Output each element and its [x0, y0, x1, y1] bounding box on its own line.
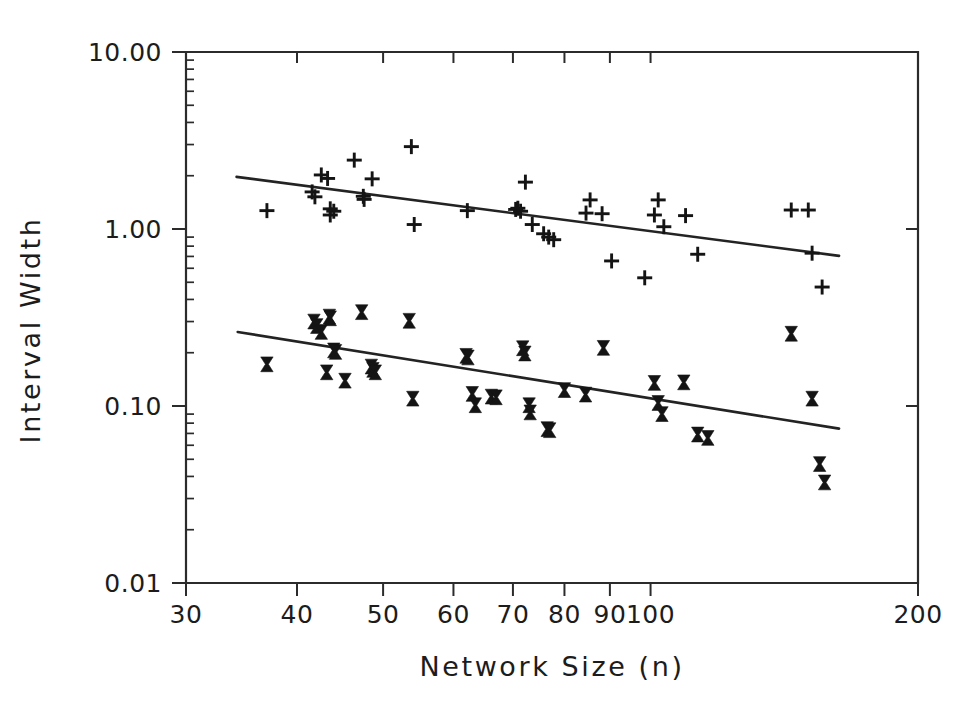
lower-series-points — [261, 305, 831, 490]
data-point-bowtie — [320, 365, 332, 380]
x-tick-label: 70 — [497, 600, 530, 629]
x-tick-label: 100 — [626, 600, 675, 629]
data-point-bowtie — [407, 391, 419, 406]
plot-frame — [186, 52, 918, 583]
data-point-bowtie — [656, 407, 668, 422]
data-point-bowtie — [692, 427, 704, 442]
data-point-bowtie — [579, 387, 591, 402]
data-point-bowtie — [558, 383, 570, 398]
lower-fit-line — [238, 332, 839, 429]
data-point-bowtie — [261, 357, 273, 372]
plot-border — [186, 52, 918, 583]
y-axis-ticks — [172, 52, 918, 583]
y-tick-label: 1.00 — [104, 215, 162, 244]
y-tick-label: 0.10 — [104, 392, 162, 421]
data-point-bowtie — [818, 475, 830, 490]
x-axis-title: Network Size (n) — [419, 651, 684, 682]
data-point-bowtie — [813, 457, 825, 472]
x-axis-tick-labels: 30405060708090100200 — [170, 600, 943, 629]
data-point-bowtie — [702, 431, 714, 446]
x-tick-label: 80 — [548, 600, 581, 629]
x-tick-label: 60 — [437, 600, 470, 629]
data-point-bowtie — [324, 311, 336, 326]
x-tick-label: 90 — [593, 600, 626, 629]
data-point-bowtie — [678, 375, 690, 390]
x-tick-label: 30 — [170, 600, 203, 629]
y-tick-label: 0.01 — [104, 569, 162, 598]
data-point-bowtie — [403, 313, 415, 328]
data-point-bowtie — [469, 398, 481, 413]
data-point-bowtie — [806, 391, 818, 406]
y-axis-tick-labels: 0.010.101.0010.00 — [88, 38, 162, 598]
data-point-bowtie — [355, 305, 367, 320]
figure-container: 30405060708090100200 0.010.101.0010.00 N… — [0, 0, 979, 702]
x-tick-label: 50 — [367, 600, 400, 629]
x-tick-label: 40 — [281, 600, 314, 629]
data-point-bowtie — [597, 340, 609, 355]
x-axis-ticks — [186, 52, 918, 596]
x-tick-label: 200 — [893, 600, 942, 629]
scatter-plot: 30405060708090100200 0.010.101.0010.00 N… — [0, 0, 979, 702]
data-point-bowtie — [648, 376, 660, 391]
y-axis-title: Interval Width — [15, 217, 46, 444]
data-point-bowtie — [339, 373, 351, 388]
y-tick-label: 10.00 — [88, 38, 162, 67]
data-point-bowtie — [785, 326, 797, 341]
